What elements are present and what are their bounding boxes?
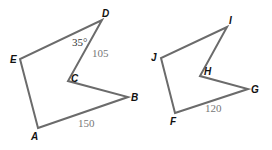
similar-polygons-diagram: A B C D E 35° 105 150 F G H I J 120 <box>0 0 272 150</box>
vertex-label-e: E <box>10 54 17 65</box>
side-fg-length: 120 <box>205 102 222 114</box>
side-ab-length: 150 <box>78 117 95 129</box>
vertex-label-f: F <box>170 116 177 127</box>
side-cd-length: 105 <box>92 47 109 59</box>
vertex-label-d: D <box>102 8 109 19</box>
vertex-label-j: J <box>151 52 157 63</box>
vertex-label-i: I <box>229 15 232 26</box>
vertex-label-c: C <box>71 73 79 84</box>
vertex-label-h: H <box>204 66 212 77</box>
vertex-label-b: B <box>131 92 138 103</box>
angle-d-measure: 35° <box>72 36 87 48</box>
vertex-label-a: A <box>30 131 38 142</box>
vertex-label-g: G <box>251 84 259 95</box>
